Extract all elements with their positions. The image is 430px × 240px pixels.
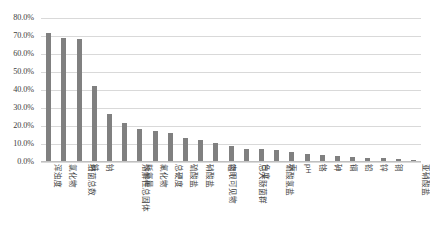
bar-slot [208,18,223,162]
bar [137,129,142,162]
x-label-slot: 硝酸盐 [193,164,208,240]
bar [77,39,82,162]
bar-slot [406,18,421,162]
bar-slot [345,18,360,162]
bar [46,33,51,162]
x-axis-labels: 浑浊度氯化物细菌总数铁钠溶解性总固体耗氧量氟化物总硬度硫酸盐硝酸盐肉眼可见物锰总… [41,164,421,240]
y-axis-tick-label: 50.0% [13,68,34,76]
x-label-slot: 钠 [102,164,117,240]
bar-slot [56,18,71,162]
x-axis-tick-label: 铅 [364,164,372,172]
bar [107,114,112,162]
bar [122,123,127,162]
bar-slot [360,18,375,162]
x-axis-line [41,161,421,162]
bar-slot [117,18,132,162]
x-label-slot: 色度 [254,164,269,240]
bar-slot [391,18,406,162]
y-axis-tick-label: 40.0% [13,86,34,94]
bar [213,143,218,162]
bar [244,149,249,163]
x-label-slot: 铅 [360,164,375,240]
gridline [41,162,421,163]
x-label-slot: 总大肠菌群 [239,164,254,240]
bar-slot [269,18,284,162]
x-label-slot: 肉眼可见物 [208,164,223,240]
bar-slot [330,18,345,162]
x-axis-tick-label: 铜 [395,164,403,172]
y-axis-tick-label: 30.0% [13,104,34,112]
bar [198,140,203,163]
x-label-slot: pH [299,164,314,240]
x-label-slot: 汞 [284,164,299,240]
x-axis-tick-label: pH [304,164,312,174]
x-label-slot: 锰 [223,164,238,240]
x-axis-tick-label: 锰 [227,164,235,172]
x-label-slot: 铜 [391,164,406,240]
x-axis-tick-label: 砷 [334,164,342,172]
x-label-slot: 氯化物 [56,164,71,240]
bar [168,133,173,162]
bar-slot [239,18,254,162]
x-axis-tick-label: 铬 [319,164,327,172]
x-label-slot: 浑浊度 [41,164,56,240]
x-label-slot: 硫酸氢盐 [269,164,284,240]
y-axis-tick-label: 0.0% [17,158,34,166]
plot-area [41,18,421,162]
bar [153,131,158,163]
x-axis-tick-label: 铁 [91,164,99,172]
bar-slot [284,18,299,162]
bar-slot [132,18,147,162]
bar [183,138,188,162]
y-axis-tick-label: 20.0% [13,122,34,130]
y-axis: 80.0%70.0%60.0%50.0%40.0%30.0%20.0%10.0%… [0,18,38,162]
bar-slot [178,18,193,162]
bar [61,38,66,162]
x-label-slot: 细菌总数 [71,164,86,240]
x-label-slot: 耗氧量 [132,164,147,240]
x-label-slot: 溶解性总固体 [117,164,132,240]
bar [92,86,97,162]
y-axis-tick-label: 60.0% [13,50,34,58]
bar-slot [254,18,269,162]
bar-slot [41,18,56,162]
x-label-slot: 铬 [315,164,330,240]
x-label-slot: 锌 [375,164,390,240]
x-label-slot: 硫酸盐 [178,164,193,240]
x-axis-tick-label: 镉 [349,164,357,172]
bar-slot [193,18,208,162]
bar-series [41,18,421,162]
x-label-slot: 氟化物 [147,164,162,240]
y-axis-tick-label: 80.0% [13,14,34,22]
bar-slot [147,18,162,162]
x-axis-tick-label: 汞 [288,164,296,172]
y-axis-tick-label: 70.0% [13,32,34,40]
bar-slot [223,18,238,162]
x-label-slot: 总硬度 [163,164,178,240]
bar-slot [299,18,314,162]
y-axis-tick-label: 10.0% [13,140,34,148]
x-axis-tick-label: 钠 [106,164,114,172]
bar-slot [102,18,117,162]
x-label-slot: 铁 [87,164,102,240]
bar-slot [375,18,390,162]
bar [229,146,234,162]
x-axis-tick-label: 亚硝酸盐 [422,164,430,196]
x-axis-tick-label: 锌 [379,164,387,172]
bar-slot [163,18,178,162]
x-label-slot: 亚硝酸盐 [406,164,421,240]
x-label-slot: 镉 [345,164,360,240]
bar-slot [71,18,86,162]
bar-slot [87,18,102,162]
bar-slot [315,18,330,162]
x-label-slot: 砷 [330,164,345,240]
